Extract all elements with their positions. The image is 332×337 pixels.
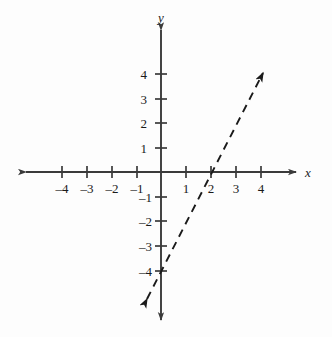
x-tick-label--3: –3 [80, 181, 94, 196]
graph-canvas: –4 –3 –2 –1 1 2 3 4 x [0, 0, 332, 337]
x-tick-label-2: 2 [208, 181, 215, 196]
y-tick-label-1: 1 [141, 141, 148, 156]
figure-background [0, 0, 332, 337]
y-tick-label-2: 2 [141, 116, 148, 131]
y-tick-label--1: –1 [138, 190, 152, 205]
x-tick-label--4: –4 [55, 181, 70, 196]
y-axis-label: y [156, 10, 164, 25]
x-tick-label--2: –2 [105, 181, 119, 196]
y-tick-label-4: 4 [141, 67, 148, 82]
x-tick-label-4: 4 [258, 181, 265, 196]
x-axis-label: x [304, 165, 311, 180]
y-tick-label--3: –3 [138, 239, 152, 254]
y-tick-label--4: –4 [138, 264, 153, 279]
coordinate-plane-figure: –4 –3 –2 –1 1 2 3 4 x [0, 0, 332, 337]
y-tick-label-3: 3 [141, 92, 148, 107]
x-tick-label-3: 3 [233, 181, 240, 196]
x-tick-label-1: 1 [183, 181, 190, 196]
y-tick-label--2: –2 [138, 214, 152, 229]
